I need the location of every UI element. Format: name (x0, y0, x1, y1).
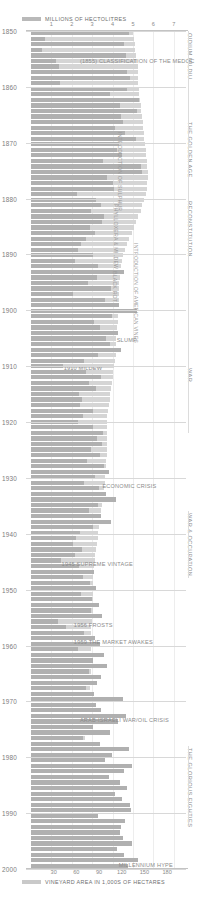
bar-production (31, 664, 107, 668)
year-gridline (26, 87, 186, 88)
bar-production (31, 187, 114, 191)
bar-production (31, 603, 99, 607)
axis-bottom-tick: 150 (140, 869, 149, 875)
bar-production (31, 764, 132, 768)
axis-bottom-tick: 90 (96, 869, 102, 875)
bar-production (31, 153, 122, 157)
year-gridline (26, 478, 186, 479)
bar-production (31, 459, 87, 463)
bar-production (31, 353, 98, 357)
bar-production (31, 631, 84, 635)
bar-production (31, 514, 101, 518)
bar-production (31, 653, 104, 657)
year-label: 1940 (2, 530, 17, 537)
bar-production (31, 814, 98, 818)
bar-production (31, 681, 97, 685)
bar-production (31, 303, 119, 307)
bar-production (31, 320, 94, 324)
year-gridline (26, 646, 186, 647)
year-label: 1980 (2, 754, 17, 761)
bar-production (31, 675, 101, 679)
chart-annotation: (1855) CLASSIFICATION OF THE MEDOC (80, 58, 194, 64)
bar-production (31, 37, 45, 41)
bar-production (31, 292, 73, 296)
bar-production (31, 453, 100, 457)
bar-production (31, 481, 84, 485)
bar-production (31, 570, 94, 574)
year-gridline (26, 757, 186, 758)
bar-production (31, 619, 58, 623)
bar-production (31, 248, 78, 252)
bar-production (31, 542, 73, 546)
bar-production (31, 597, 92, 601)
axis-top-tick: 1 (50, 21, 53, 27)
bar-production (31, 725, 93, 729)
bar-production (31, 92, 110, 96)
bar-production (31, 414, 83, 418)
bar-production (31, 148, 117, 152)
era-bracket (188, 746, 189, 824)
bar-production (31, 237, 86, 241)
axis-bottom-tick: 120 (117, 869, 126, 875)
bar-production (31, 547, 82, 551)
year-label: 1890 (2, 251, 17, 258)
bar-production (31, 425, 93, 429)
bar-production (31, 220, 102, 224)
bar-production (31, 742, 100, 746)
chart-annotation-vertical: BLACK ROT (112, 271, 118, 302)
bar-production (31, 298, 105, 302)
year-gridline (26, 143, 186, 144)
axis-top-tick: 5 (131, 21, 134, 27)
area-swatch-icon (22, 880, 41, 884)
bar-production (31, 736, 83, 740)
year-gridline (26, 813, 186, 814)
bar-production (31, 325, 100, 329)
bar-production (31, 170, 142, 174)
bar-production (31, 708, 101, 712)
bar-production (31, 825, 121, 829)
year-label: 1950 (2, 586, 17, 593)
bar-production (31, 730, 110, 734)
bar-production (31, 397, 82, 401)
year-gridline (26, 31, 186, 32)
year-label: 1970 (2, 698, 17, 705)
bar-production (31, 126, 115, 130)
bar-production (31, 192, 77, 196)
year-label: 1860 (2, 83, 17, 90)
bar-production (31, 553, 75, 557)
axis-top-tick: 7 (172, 21, 175, 27)
bar-production (31, 503, 98, 507)
bar-production (31, 486, 99, 490)
bar-production (31, 608, 91, 612)
year-label: 1900 (2, 307, 17, 314)
bar-production (31, 614, 102, 618)
bar-production (31, 231, 95, 235)
plot-area: (1855) CLASSIFICATION OF THE MEDOCINTROD… (31, 31, 186, 869)
bar-production (31, 686, 86, 690)
year-label: 1920 (2, 419, 17, 426)
bar-production (31, 225, 90, 229)
bar-production (31, 81, 60, 85)
year-gridline (26, 310, 186, 311)
year-gridline (26, 254, 186, 255)
year-label: 1910 (2, 363, 17, 370)
year-label: 2000 (2, 866, 17, 873)
era-bracket (188, 199, 189, 367)
bar-production (31, 131, 125, 135)
era-bracket (188, 366, 189, 433)
bar-production (31, 520, 111, 524)
bar-production (31, 808, 131, 812)
bar-production (31, 436, 97, 440)
bar-production (31, 558, 61, 562)
bar-production (31, 259, 75, 263)
era-bracket (188, 511, 189, 578)
bar-production (31, 753, 112, 757)
bar-production (31, 281, 88, 285)
bar-production (31, 464, 104, 468)
bar-production (31, 209, 91, 213)
axis-bottom-ticks: 306090120150180 (31, 869, 186, 879)
bar-production (31, 76, 130, 80)
bar-production (31, 286, 111, 290)
bar-production (31, 242, 81, 246)
bar-production (31, 769, 124, 773)
